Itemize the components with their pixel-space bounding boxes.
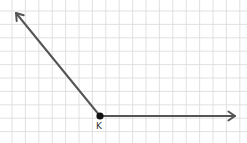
rays (16, 13, 235, 121)
diagram-svg: K (0, 0, 247, 143)
vertex-label: K (96, 121, 103, 131)
angle-diagram: K (0, 0, 247, 143)
vertex-point (96, 112, 103, 119)
grid (0, 0, 247, 143)
